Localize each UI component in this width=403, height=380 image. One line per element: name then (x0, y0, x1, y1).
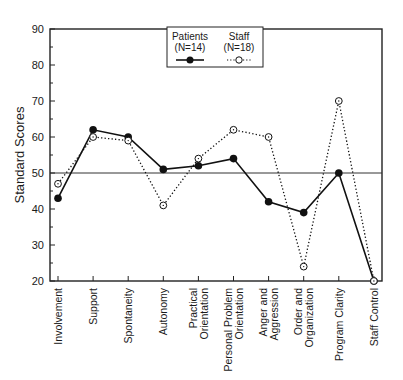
legend-patients-label: Patients (172, 31, 208, 42)
svg-text:Staff Control: Staff Control (368, 288, 380, 346)
x-tick-label: Personal ProblemOrientation (222, 288, 245, 372)
x-tick-label: Program Clarity (333, 287, 345, 361)
data-point (230, 155, 238, 163)
x-tick-label: Staff Control (368, 288, 380, 346)
data-point (300, 209, 308, 217)
svg-text:Program Clarity: Program Clarity (333, 287, 345, 361)
data-point (54, 194, 62, 202)
x-tick-label: Anger andAggression (257, 288, 280, 341)
svg-text:Spontaneity: Spontaneity (122, 287, 134, 343)
data-point (160, 166, 168, 174)
y-tick-label: 30 (32, 239, 44, 251)
y-tick-label: 70 (32, 95, 44, 107)
svg-text:Autonomy: Autonomy (157, 287, 169, 335)
data-point (335, 169, 343, 177)
series-staff (55, 98, 378, 285)
y-tick-label: 20 (32, 275, 44, 287)
legend-staff-label: Staff (229, 31, 250, 42)
data-point (265, 198, 273, 206)
svg-text:Organization: Organization (303, 288, 315, 348)
data-point (89, 126, 97, 134)
x-tick-label: Order andOrganization (292, 288, 315, 348)
svg-text:Support: Support (87, 288, 99, 325)
y-tick-label: 90 (32, 23, 44, 35)
x-axis-ticks: InvolvementSupportSpontaneityAutonomyPra… (52, 276, 380, 371)
legend: Patients (N=14) Staff (N=18) (167, 27, 263, 67)
line-chart: 2030405060708090 InvolvementSupportSpont… (0, 0, 403, 380)
x-tick-label: Spontaneity (122, 287, 134, 343)
legend-staff-n: (N=18) (224, 42, 255, 53)
y-tick-label: 40 (32, 203, 44, 215)
y-tick-label: 50 (32, 167, 44, 179)
y-tick-label: 60 (32, 131, 44, 143)
svg-text:Orientation: Orientation (198, 288, 210, 340)
svg-text:Orientation: Orientation (233, 288, 245, 340)
y-tick-label: 80 (32, 59, 44, 71)
x-tick-label: Involvement (52, 288, 64, 345)
x-tick-label: PracticalOrientation (187, 288, 210, 340)
legend-patients-n: (N=14) (175, 42, 206, 53)
x-tick-label: Autonomy (157, 287, 169, 335)
svg-text:Aggression: Aggression (268, 288, 280, 341)
y-axis-label: Standard Scores (12, 106, 27, 203)
series-layer (54, 98, 378, 285)
series-patients (54, 126, 378, 285)
x-tick-label: Support (87, 288, 99, 325)
y-axis-ticks: 2030405060708090 (32, 23, 55, 287)
svg-text:Involvement: Involvement (52, 288, 64, 345)
